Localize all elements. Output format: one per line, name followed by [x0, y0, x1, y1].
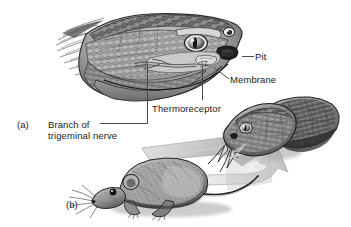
snake-head-cutaway: [56, 14, 242, 102]
heat-arrow-heads: [226, 142, 262, 173]
label-trigeminal-line1: Branch of: [48, 119, 90, 130]
label-pit: Pit: [255, 51, 266, 62]
leader-line-pit: [242, 56, 254, 57]
thermoreception-figure: Pit Membrane Thermoreceptor Branch of tr…: [0, 0, 351, 227]
snake-eye-b: [240, 123, 253, 133]
pit-organ-b: [231, 133, 238, 138]
thermoreceptor-cluster: [196, 61, 211, 68]
leader-line-membrane: [214, 68, 229, 80]
mouse-tail: [204, 176, 258, 195]
mouse-eye: [110, 189, 116, 195]
mouse-ear: [121, 172, 141, 191]
snake-head-striking: [208, 97, 339, 172]
panel-letter-b: (b): [66, 199, 78, 210]
trigeminal-branch: [134, 59, 196, 69]
infrared-heat-cones: [142, 124, 288, 190]
mouse-illustration: [69, 158, 258, 221]
snake-eye-a: [185, 35, 208, 52]
panel-letter-a: (a): [17, 119, 29, 130]
leader-line-trigeminal-horizontal: [100, 123, 148, 124]
pit-organ-opening: [217, 46, 238, 60]
snake-fangs: [208, 141, 238, 172]
label-membrane: Membrane: [230, 74, 276, 85]
label-thermoreceptor: Thermoreceptor: [152, 103, 221, 114]
snake-nostril-a: [223, 28, 234, 37]
leader-line-trigeminal-vertical: [147, 62, 148, 124]
leader-line-thermoreceptor: [202, 67, 203, 100]
label-trigeminal-line2: trigeminal nerve: [48, 130, 117, 141]
